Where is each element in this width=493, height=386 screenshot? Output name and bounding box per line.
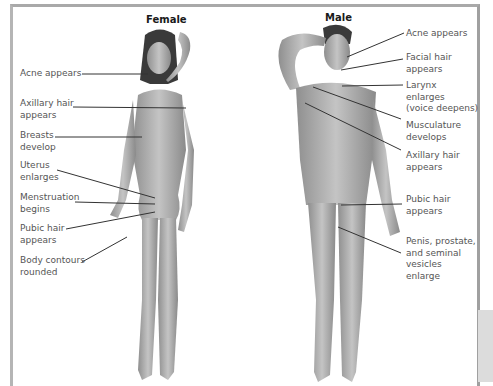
female-label-acne: Acne appears — [20, 68, 81, 80]
male-heading: Male — [325, 12, 352, 23]
male-label-acne: Acne appears — [406, 28, 467, 40]
female-label-pubic: Pubic hair appears — [20, 223, 64, 246]
male-label-musculature: Musculature develops — [406, 120, 461, 143]
male-figure — [278, 25, 400, 382]
male-label-genitals: Penis, prostate, and seminal vesicles en… — [406, 236, 476, 282]
male-label-axillary: Axillary hair appears — [406, 150, 460, 173]
female-label-breasts: Breasts develop — [20, 130, 56, 153]
female-label-axillary: Axillary hair appears — [20, 98, 74, 121]
female-heading: Female — [146, 14, 187, 25]
male-label-facial: Facial hair appears — [406, 52, 452, 75]
female-figure — [110, 30, 194, 381]
male-label-pubic: Pubic hair appears — [406, 194, 450, 217]
female-label-uterus: Uterus enlarges — [20, 160, 59, 183]
male-label-larynx: Larynx enlarges (voice deepens) — [406, 80, 478, 115]
female-label-contours: Body contours rounded — [20, 255, 85, 278]
female-label-menstruation: Menstruation begins — [20, 192, 79, 215]
